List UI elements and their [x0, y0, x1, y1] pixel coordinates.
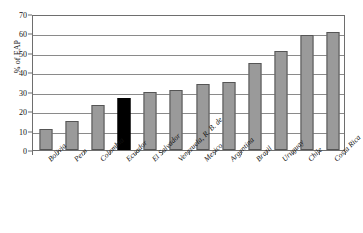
y-axis-tick-label: 40	[19, 69, 27, 78]
x-axis-tick-mark	[110, 151, 111, 155]
x-axis-tick-mark	[58, 151, 59, 155]
bar-slot	[268, 16, 294, 150]
bar-slot	[216, 16, 242, 150]
x-axis-tick-mark	[84, 151, 85, 155]
bar-slot	[163, 16, 189, 150]
bar-colombia	[92, 105, 105, 150]
bar-costa-rica	[326, 32, 339, 151]
bar-peru	[66, 121, 79, 150]
x-axis-tick-mark	[293, 151, 294, 155]
x-axis-tick-mark	[189, 151, 190, 155]
bar-bolivia	[40, 129, 53, 150]
bar-slot	[190, 16, 216, 150]
y-axis: 010203040506070	[0, 0, 32, 233]
plot-area	[32, 15, 345, 151]
bar-uruguay	[274, 51, 287, 150]
x-axis-tick-mark	[162, 151, 163, 155]
x-axis-tick-mark	[345, 151, 346, 155]
y-axis-tick-label: 20	[19, 108, 27, 117]
y-axis-tick-label: 60	[19, 30, 27, 39]
bar-argentina	[222, 82, 235, 150]
x-axis-tick-mark	[267, 151, 268, 155]
y-axis-tick-label: 70	[19, 11, 27, 20]
bar-series	[33, 16, 344, 150]
bar-slot	[137, 16, 163, 150]
bar-slot	[33, 16, 59, 150]
bar-slot	[59, 16, 85, 150]
bar-slot	[320, 16, 346, 150]
y-axis-tick-label: 0	[23, 147, 27, 156]
y-axis-tick-label: 50	[19, 49, 27, 58]
y-axis-tick-label: 10	[19, 127, 27, 136]
bar-ecuador	[118, 98, 131, 150]
bar-slot	[85, 16, 111, 150]
x-axis-tick-mark	[241, 151, 242, 155]
x-axis-tick-mark	[215, 151, 216, 155]
bar-el-salvador	[144, 92, 157, 150]
x-axis-tick-mark	[32, 151, 33, 155]
y-axis-tick-label: 30	[19, 88, 27, 97]
bar-slot	[294, 16, 320, 150]
x-axis-tick-mark	[136, 151, 137, 155]
bar-brazil	[248, 63, 261, 150]
bar-venezuela-r-b-de	[170, 90, 183, 150]
bar-chile	[300, 35, 313, 150]
x-axis-tick-mark	[319, 151, 320, 155]
bar-slot	[242, 16, 268, 150]
bar-slot	[111, 16, 137, 150]
bar-mexico	[196, 84, 209, 150]
